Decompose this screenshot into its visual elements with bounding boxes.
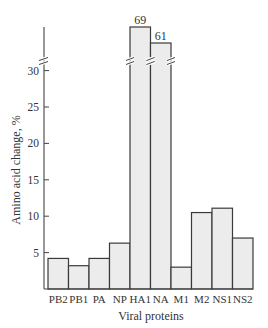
y-tick-label: 10 [28,210,40,222]
y-tick-label: 15 [28,174,40,186]
y-tick-label: 25 [28,101,40,113]
bar-pb1 [69,266,90,289]
x-tick-label: M1 [174,293,189,305]
bar-np [110,243,131,289]
bar-ha1 [130,27,151,289]
x-axis-title: Viral proteins [118,309,184,323]
bar-m1 [171,267,192,289]
value-label-na: 61 [155,29,167,43]
bar-na [151,43,172,289]
x-tick-label: NP [113,293,127,305]
bar-m2 [192,213,213,289]
x-tick-label: PB2 [49,293,68,305]
x-tick-label: NS2 [233,293,253,305]
bar-chart: PB2PB1PANPHA169NA61M1M2NS1NS251015202530… [0,0,268,328]
x-tick-label: PB1 [69,293,88,305]
x-tick-label: M2 [194,293,209,305]
bar-ns1 [212,208,233,289]
y-tick-label: 20 [28,137,40,149]
x-tick-label: NS1 [212,293,232,305]
x-tick-label: NA [153,293,169,305]
x-tick-label: PA [93,293,106,305]
bar-pb2 [48,258,69,289]
bar-pa [89,258,110,289]
bars-group [48,27,253,289]
y-tick-label: 30 [28,65,40,77]
y-tick-label: 5 [33,247,39,259]
y-axis-title: Amino acid change, % [9,115,23,224]
value-label-ha1: 69 [134,13,146,27]
bar-ns2 [233,238,254,289]
x-tick-label: HA1 [130,293,151,305]
